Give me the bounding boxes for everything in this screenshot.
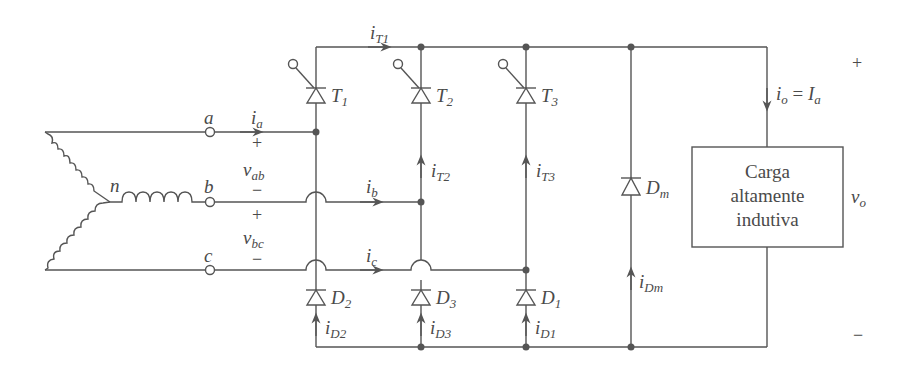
label-T2: T2 bbox=[436, 86, 453, 108]
wire-phase-b bbox=[214, 192, 421, 202]
terminal-c bbox=[206, 266, 215, 275]
terminal-b bbox=[206, 198, 215, 207]
thyristor-T2 bbox=[394, 47, 432, 202]
label-io-equals-Ia: io = Ia bbox=[776, 84, 821, 106]
label-terminal-b: b bbox=[204, 177, 214, 196]
label-neutral: n bbox=[110, 176, 120, 195]
label-iD2: iD2 bbox=[325, 318, 346, 340]
vo-minus-sign: − bbox=[853, 326, 863, 344]
label-D2: D2 bbox=[331, 288, 351, 310]
vab-minus-sign: − bbox=[252, 181, 262, 199]
label-Dm: Dm bbox=[646, 178, 669, 200]
load-line-2: altamente bbox=[692, 184, 843, 208]
vab-plus-sign: + bbox=[252, 134, 262, 152]
junction-dots bbox=[313, 44, 635, 351]
source-winding-a bbox=[45, 132, 110, 202]
vo-plus-sign: + bbox=[852, 54, 862, 72]
label-vbc: vbc bbox=[243, 228, 264, 250]
label-ia: ia bbox=[251, 108, 263, 130]
label-iT3: iT3 bbox=[536, 161, 555, 183]
label-iT1: iT1 bbox=[370, 23, 389, 45]
label-D3: D3 bbox=[436, 288, 456, 310]
label-ic: ic bbox=[366, 246, 377, 268]
label-terminal-c: c bbox=[204, 246, 212, 265]
label-terminal-a: a bbox=[204, 108, 214, 127]
label-vo: vo bbox=[851, 187, 866, 209]
vbc-plus-sign: + bbox=[252, 206, 262, 224]
diode-D2 bbox=[306, 132, 326, 347]
label-iT2: iT2 bbox=[431, 161, 450, 183]
label-T3: T3 bbox=[541, 86, 558, 108]
load-description: Carga altamente indutiva bbox=[692, 160, 843, 232]
label-vab: vab bbox=[243, 160, 264, 182]
label-ib: ib bbox=[366, 177, 378, 199]
label-iDm: iDm bbox=[639, 272, 663, 294]
label-D1: D1 bbox=[541, 288, 561, 310]
source-winding-c bbox=[45, 202, 110, 270]
label-iD1: iD1 bbox=[535, 318, 556, 340]
label-T1: T1 bbox=[331, 86, 348, 108]
thyristor-T3 bbox=[499, 47, 537, 270]
thyristor-T1 bbox=[289, 47, 327, 132]
source-winding-b bbox=[110, 192, 206, 202]
terminal-a bbox=[206, 128, 215, 137]
vbc-minus-sign: − bbox=[252, 250, 262, 268]
load-line-1: Carga bbox=[692, 160, 843, 184]
load-line-3: indutiva bbox=[692, 208, 843, 232]
label-iD3: iD3 bbox=[430, 318, 451, 340]
freewheeling-diode-Dm bbox=[621, 47, 641, 347]
